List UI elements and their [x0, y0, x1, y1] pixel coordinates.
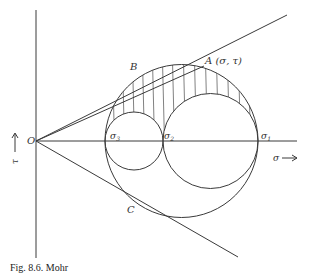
- mohr-circle-diagram: O B A (σ, τ) C σ3 σ2 σ1 σ τ: [0, 0, 315, 274]
- tangent-line-lower: [36, 141, 238, 257]
- sigma1-label: σ1: [261, 131, 271, 142]
- origin-label: O: [27, 135, 35, 146]
- sigma3-label: σ3: [110, 131, 120, 142]
- point-b-label: B: [129, 61, 137, 72]
- sigma-arrow-icon: [282, 155, 297, 161]
- sigma-axis-label: σ: [273, 153, 280, 163]
- sigma2-label: σ2: [164, 131, 174, 142]
- figure-caption: Fig. 8.6. Mohr: [10, 262, 68, 273]
- point-c-label: C: [127, 204, 135, 215]
- line-to-point-a: [36, 66, 204, 141]
- point-a-label: A (σ, τ): [204, 55, 242, 66]
- tangent-line-upper: [36, 15, 287, 141]
- tau-arrow-icon: [12, 133, 18, 152]
- tau-axis-label: τ: [10, 158, 20, 164]
